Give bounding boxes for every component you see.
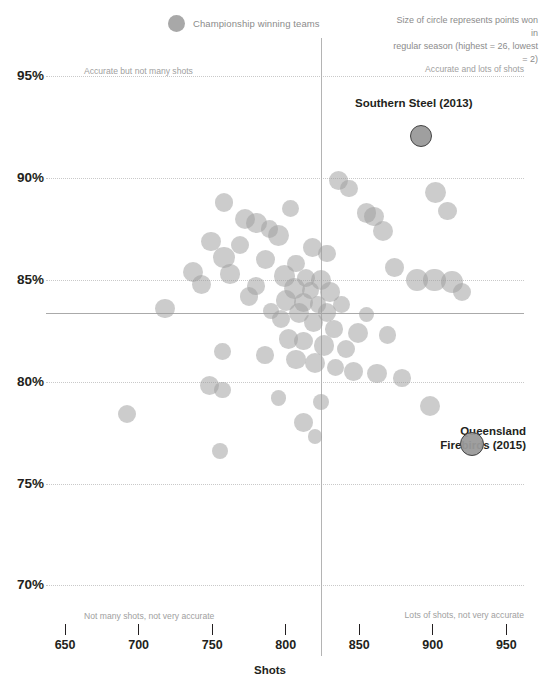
y-tick-label-90: 90% xyxy=(0,170,44,185)
legend-championship-teams: Championship winning teams xyxy=(168,15,320,32)
data-point xyxy=(286,350,305,369)
data-point xyxy=(314,335,335,356)
x-tick-label-750: 750 xyxy=(192,638,232,652)
x-tick-mark-900 xyxy=(432,624,433,635)
plot-area xyxy=(46,52,524,622)
x-tick-mark-950 xyxy=(506,624,507,635)
data-point xyxy=(214,343,231,360)
x-tick-950: 950 xyxy=(486,624,526,652)
data-point xyxy=(337,340,355,358)
x-axis-ticks: 650700750800850900950 xyxy=(46,624,524,664)
data-point xyxy=(294,332,313,351)
x-tick-900: 900 xyxy=(413,624,453,652)
x-tick-label-800: 800 xyxy=(266,638,306,652)
y-tick-label-75: 75% xyxy=(0,476,44,491)
data-point xyxy=(340,180,358,198)
x-tick-label-850: 850 xyxy=(339,638,379,652)
data-point xyxy=(240,287,259,306)
data-point xyxy=(192,275,211,294)
data-point xyxy=(420,396,440,416)
data-point xyxy=(348,323,368,343)
data-point xyxy=(385,258,404,277)
scatter-chart: Championship winning teams Size of circl… xyxy=(0,0,540,690)
data-point xyxy=(379,326,396,343)
data-point xyxy=(438,202,456,220)
data-point xyxy=(294,413,313,432)
y-tick-label-80: 80% xyxy=(0,374,44,389)
data-point xyxy=(212,443,228,459)
x-tick-label-900: 900 xyxy=(413,638,453,652)
x-tick-mark-850 xyxy=(359,624,360,635)
data-point xyxy=(359,307,374,322)
gridline-y-75 xyxy=(46,484,524,485)
x-tick-mark-700 xyxy=(138,624,139,635)
x-tick-850: 850 xyxy=(339,624,379,652)
data-point xyxy=(268,225,289,246)
y-tick-label-70: 70% xyxy=(0,577,44,592)
data-point xyxy=(367,364,387,384)
x-tick-mark-800 xyxy=(285,624,286,635)
x-tick-750: 750 xyxy=(192,624,232,652)
data-point xyxy=(256,346,274,364)
data-point xyxy=(425,182,446,203)
x-tick-700: 700 xyxy=(119,624,159,652)
gridline-y-80 xyxy=(46,382,524,383)
data-point xyxy=(282,200,299,217)
data-point xyxy=(214,382,231,399)
x-tick-mark-650 xyxy=(65,624,66,635)
data-point xyxy=(393,369,411,387)
data-point xyxy=(453,283,471,301)
y-tick-label-85: 85% xyxy=(0,272,44,287)
data-point xyxy=(272,310,290,328)
x-tick-label-700: 700 xyxy=(119,638,159,652)
x-tick-mark-750 xyxy=(212,624,213,635)
data-point xyxy=(155,299,175,319)
data-point xyxy=(220,264,240,284)
data-point xyxy=(271,390,286,405)
data-point xyxy=(344,362,363,381)
data-point xyxy=(305,353,325,373)
data-point xyxy=(373,221,393,241)
championship-circle-icon xyxy=(168,15,185,32)
x-axis-title: Shots xyxy=(0,664,540,676)
data-point-champion xyxy=(460,432,484,456)
data-point-champion xyxy=(410,125,432,147)
y-tick-label-95: 95% xyxy=(0,68,44,83)
legend-championship-label: Championship winning teams xyxy=(193,18,320,29)
legend-size-note-line1: Size of circle represents points won in xyxy=(388,14,538,40)
x-tick-800: 800 xyxy=(266,624,306,652)
x-tick-label-950: 950 xyxy=(486,638,526,652)
data-point xyxy=(256,250,275,269)
x-tick-650: 650 xyxy=(45,624,85,652)
data-point xyxy=(318,245,336,263)
data-point xyxy=(313,394,329,410)
x-tick-label-650: 650 xyxy=(45,638,85,652)
data-point xyxy=(327,359,344,376)
data-point xyxy=(215,193,234,212)
data-point xyxy=(118,405,136,423)
gridline-y-90 xyxy=(46,178,524,179)
gridline-y-70 xyxy=(46,585,524,586)
gridline-y-95 xyxy=(46,76,524,77)
